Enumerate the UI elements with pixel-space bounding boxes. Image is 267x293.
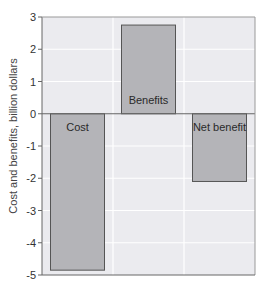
bar-chart: 3210-1-2-3-4-5 CostBenefitsNet benefit C… [0,0,267,293]
y-tick-label: 1 [30,76,36,88]
y-tick-label: 2 [30,43,36,55]
bar-label: Cost [66,121,89,133]
y-tick-label: 3 [30,11,36,23]
y-tick-label: 0 [30,108,36,120]
y-tick-label: -3 [26,205,36,217]
bar-cost [51,114,105,270]
bar-label: Benefits [129,94,169,106]
y-tick-label: -2 [26,172,36,184]
y-tick-labels: 3210-1-2-3-4-5 [26,11,42,281]
y-tick-label: -5 [26,269,36,281]
y-tick-label: -4 [26,237,36,249]
bar-label: Net benefit [193,121,246,133]
y-tick-label: -1 [26,140,36,152]
y-axis-title: Cost and benefits, billion dollars [7,58,19,214]
